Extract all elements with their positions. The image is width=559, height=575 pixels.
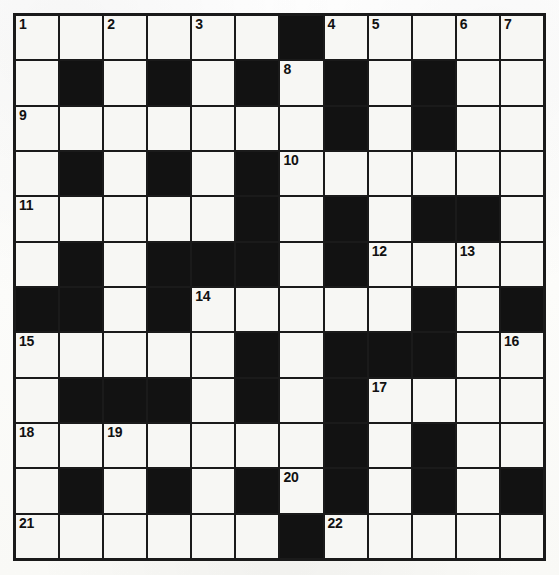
grid-open-cell[interactable] — [280, 107, 322, 150]
grid-open-cell[interactable] — [457, 469, 499, 512]
grid-open-cell[interactable]: 15 — [16, 333, 58, 376]
grid-open-cell[interactable] — [148, 515, 190, 558]
grid-open-cell[interactable] — [104, 243, 146, 286]
grid-open-cell[interactable]: 19 — [104, 424, 146, 467]
grid-open-cell[interactable] — [148, 333, 190, 376]
grid-open-cell[interactable] — [236, 424, 278, 467]
grid-open-cell[interactable] — [192, 379, 234, 422]
grid-open-cell[interactable] — [60, 515, 102, 558]
grid-open-cell[interactable] — [104, 152, 146, 195]
grid-open-cell[interactable] — [413, 515, 455, 558]
grid-open-cell[interactable] — [325, 152, 367, 195]
grid-open-cell[interactable] — [192, 333, 234, 376]
grid-open-cell[interactable] — [60, 424, 102, 467]
grid-open-cell[interactable]: 3 — [192, 16, 234, 59]
grid-open-cell[interactable] — [148, 107, 190, 150]
grid-open-cell[interactable] — [192, 152, 234, 195]
grid-open-cell[interactable] — [16, 243, 58, 286]
grid-open-cell[interactable] — [192, 469, 234, 512]
grid-open-cell[interactable] — [104, 333, 146, 376]
grid-open-cell[interactable]: 13 — [457, 243, 499, 286]
grid-open-cell[interactable]: 17 — [369, 379, 411, 422]
grid-open-cell[interactable] — [501, 515, 543, 558]
grid-open-cell[interactable] — [457, 152, 499, 195]
grid-open-cell[interactable] — [192, 107, 234, 150]
grid-open-cell[interactable] — [501, 152, 543, 195]
grid-open-cell[interactable] — [280, 288, 322, 331]
grid-open-cell[interactable] — [16, 469, 58, 512]
crossword-grid[interactable]: 12345678910111213141516171819202122 — [13, 13, 546, 561]
grid-open-cell[interactable] — [325, 288, 367, 331]
grid-open-cell[interactable] — [104, 197, 146, 240]
grid-open-cell[interactable] — [501, 424, 543, 467]
grid-open-cell[interactable] — [236, 16, 278, 59]
grid-open-cell[interactable] — [104, 61, 146, 104]
grid-open-cell[interactable]: 6 — [457, 16, 499, 59]
grid-open-cell[interactable] — [16, 152, 58, 195]
grid-open-cell[interactable] — [60, 197, 102, 240]
grid-open-cell[interactable]: 11 — [16, 197, 58, 240]
grid-open-cell[interactable] — [369, 424, 411, 467]
grid-open-cell[interactable]: 4 — [325, 16, 367, 59]
grid-open-cell[interactable] — [457, 288, 499, 331]
grid-open-cell[interactable] — [369, 288, 411, 331]
grid-open-cell[interactable] — [280, 243, 322, 286]
grid-open-cell[interactable] — [280, 424, 322, 467]
grid-open-cell[interactable] — [501, 107, 543, 150]
grid-open-cell[interactable] — [236, 515, 278, 558]
grid-open-cell[interactable] — [148, 424, 190, 467]
grid-open-cell[interactable]: 7 — [501, 16, 543, 59]
grid-open-cell[interactable] — [192, 61, 234, 104]
grid-open-cell[interactable] — [501, 243, 543, 286]
grid-open-cell[interactable] — [280, 379, 322, 422]
grid-open-cell[interactable] — [369, 515, 411, 558]
grid-open-cell[interactable]: 20 — [280, 469, 322, 512]
grid-open-cell[interactable]: 9 — [16, 107, 58, 150]
grid-open-cell[interactable]: 1 — [16, 16, 58, 59]
grid-open-cell[interactable] — [501, 61, 543, 104]
grid-open-cell[interactable] — [413, 152, 455, 195]
grid-open-cell[interactable]: 22 — [325, 515, 367, 558]
grid-open-cell[interactable] — [104, 288, 146, 331]
grid-open-cell[interactable]: 21 — [16, 515, 58, 558]
grid-open-cell[interactable] — [192, 197, 234, 240]
grid-open-cell[interactable] — [16, 61, 58, 104]
grid-open-cell[interactable] — [457, 333, 499, 376]
grid-open-cell[interactable] — [236, 107, 278, 150]
grid-open-cell[interactable] — [457, 379, 499, 422]
grid-open-cell[interactable]: 10 — [280, 152, 322, 195]
grid-open-cell[interactable]: 8 — [280, 61, 322, 104]
grid-open-cell[interactable] — [104, 107, 146, 150]
grid-open-cell[interactable]: 14 — [192, 288, 234, 331]
grid-open-cell[interactable] — [104, 469, 146, 512]
grid-open-cell[interactable] — [413, 379, 455, 422]
grid-open-cell[interactable] — [501, 197, 543, 240]
grid-open-cell[interactable]: 18 — [16, 424, 58, 467]
grid-open-cell[interactable] — [60, 333, 102, 376]
grid-open-cell[interactable] — [148, 197, 190, 240]
grid-open-cell[interactable] — [369, 152, 411, 195]
grid-open-cell[interactable] — [457, 107, 499, 150]
grid-open-cell[interactable] — [369, 107, 411, 150]
grid-open-cell[interactable] — [60, 107, 102, 150]
grid-open-cell[interactable] — [457, 424, 499, 467]
grid-open-cell[interactable] — [501, 379, 543, 422]
grid-open-cell[interactable] — [457, 61, 499, 104]
grid-open-cell[interactable] — [413, 243, 455, 286]
grid-open-cell[interactable] — [369, 197, 411, 240]
grid-open-cell[interactable] — [148, 16, 190, 59]
grid-open-cell[interactable] — [280, 197, 322, 240]
grid-open-cell[interactable] — [104, 515, 146, 558]
grid-open-cell[interactable] — [236, 288, 278, 331]
grid-open-cell[interactable]: 12 — [369, 243, 411, 286]
grid-open-cell[interactable] — [457, 515, 499, 558]
grid-open-cell[interactable] — [413, 16, 455, 59]
grid-open-cell[interactable]: 2 — [104, 16, 146, 59]
grid-open-cell[interactable] — [16, 379, 58, 422]
grid-open-cell[interactable] — [280, 333, 322, 376]
grid-open-cell[interactable] — [192, 515, 234, 558]
grid-open-cell[interactable] — [369, 469, 411, 512]
grid-open-cell[interactable] — [60, 16, 102, 59]
grid-open-cell[interactable]: 5 — [369, 16, 411, 59]
grid-open-cell[interactable]: 16 — [501, 333, 543, 376]
